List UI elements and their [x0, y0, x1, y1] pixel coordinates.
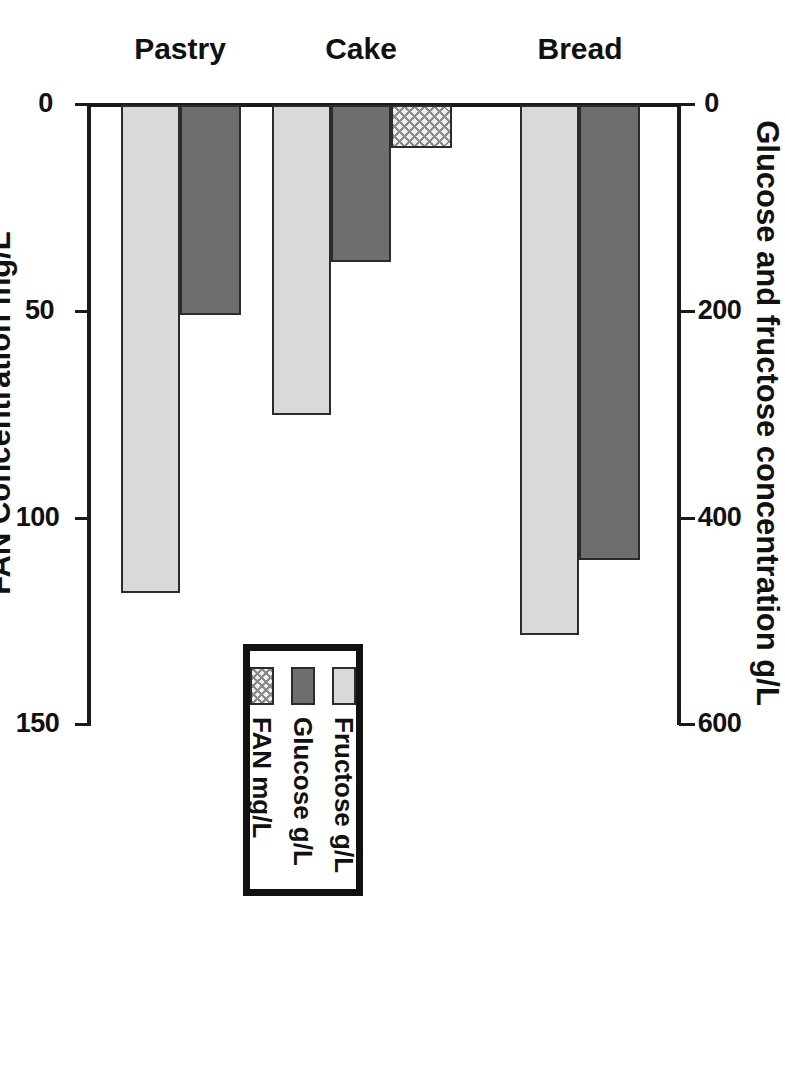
- fructose-swatch-icon: [332, 667, 356, 705]
- category-label-cake: Cake: [325, 32, 397, 66]
- bar-cake-fructose: [272, 105, 331, 415]
- bar-bread-glucose: [579, 105, 640, 560]
- bottom-axis-tick-100: [75, 517, 91, 520]
- bottom-axis-tick-label-150: 150: [15, 707, 59, 738]
- top-axis-tick-label-400: 400: [697, 501, 741, 532]
- top-axis-tick-200: [679, 310, 695, 313]
- legend-label-fan: FAN mg/L: [246, 717, 277, 838]
- legend-item-fructose: Fructose g/L: [328, 667, 359, 873]
- legend-item-glucose: Glucose g/L: [287, 667, 318, 873]
- bar-pastry-glucose: [180, 105, 241, 315]
- top-value-axis-line: [677, 103, 681, 725]
- category-label-bread: Bread: [537, 32, 622, 66]
- bottom-value-axis-line: [87, 103, 91, 725]
- glucose-swatch-icon: [291, 667, 315, 705]
- bottom-axis-tick-0: [75, 103, 91, 106]
- bar-cake-glucose: [331, 105, 391, 262]
- plot-area: 0 200 400 600 Glucose and fructose conce…: [33, 33, 733, 1033]
- legend-item-fan: FAN mg/L: [246, 667, 277, 873]
- chart-figure: 0 200 400 600 Glucose and fructose conce…: [33, 33, 733, 1033]
- fan-swatch-icon: [250, 667, 274, 705]
- bar-pastry-fructose: [121, 105, 180, 593]
- top-axis-tick-400: [679, 517, 695, 520]
- top-axis-title: Glucose and fructose concentration g/L: [749, 120, 785, 706]
- bottom-axis-tick-label-100: 100: [15, 501, 59, 532]
- top-axis-tick-label-200: 200: [697, 294, 741, 325]
- legend-label-fructose: Fructose g/L: [328, 717, 359, 873]
- bar-bread-fructose: [520, 105, 579, 635]
- bottom-axis-tick-150: [75, 723, 91, 726]
- legend-label-glucose: Glucose g/L: [287, 717, 318, 866]
- bottom-axis-tick-50: [75, 310, 91, 313]
- bottom-axis-title: FAN Concentration mg/L: [0, 231, 18, 594]
- bottom-axis-tick-label-50: 50: [24, 294, 53, 325]
- top-axis-tick-label-0: 0: [704, 87, 719, 118]
- chart-legend: Fructose g/L Glucose g/L FAN mg/L: [243, 644, 363, 896]
- bottom-axis-tick-label-0: 0: [38, 87, 53, 118]
- bar-cake-fan: [391, 105, 452, 148]
- top-axis-tick-600: [679, 723, 695, 726]
- top-axis-tick-label-600: 600: [697, 707, 741, 738]
- category-label-pastry: Pastry: [134, 32, 226, 66]
